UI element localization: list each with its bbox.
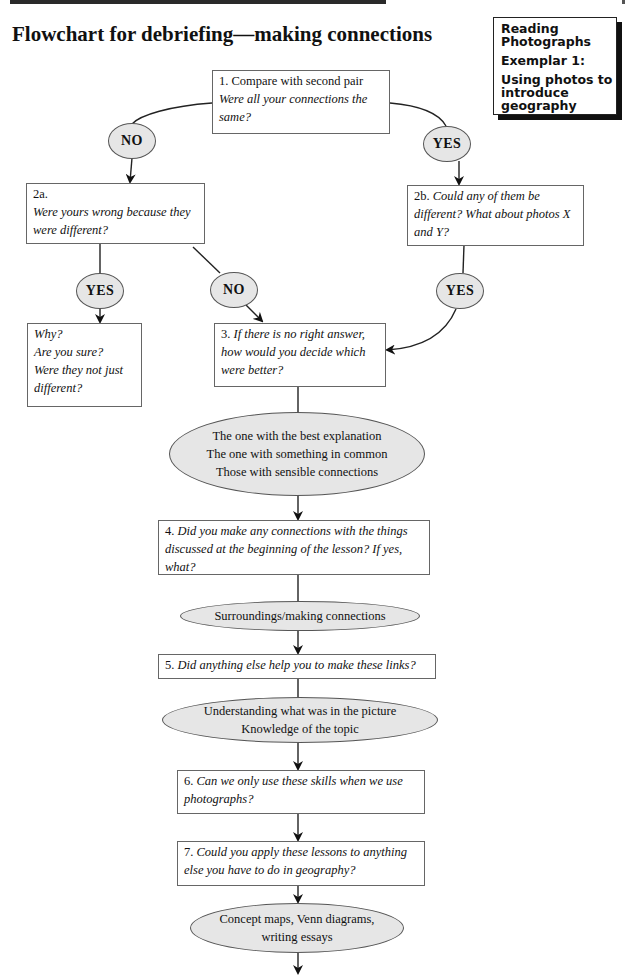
why-line-3: Were they not just: [34, 361, 135, 379]
answer-3-2: The one with something in common: [207, 445, 388, 463]
step-5-box: 5. Did anything else help you to make th…: [158, 654, 436, 679]
no-oval-2a: NO: [210, 272, 258, 308]
why-line-2: Are you sure?: [34, 343, 135, 361]
answer-4-1: Surroundings/making connections: [214, 607, 385, 625]
step-4-label: 4.: [165, 524, 174, 538]
yes-oval-1: YES: [423, 126, 471, 162]
why-line-4: different?: [34, 379, 135, 397]
yes-oval-2a: YES: [76, 273, 124, 309]
answer-5-1: Understanding what was in the picture: [204, 702, 397, 720]
step-3-question: If there is no right answer, how would y…: [221, 327, 365, 377]
step-2a-box: 2a. Were yours wrong because they were d…: [26, 183, 205, 244]
answers-3-oval: The one with the best explanation The on…: [169, 412, 425, 496]
answer-3-1: The one with the best explanation: [212, 427, 381, 445]
answer-7-2: writing essays: [261, 928, 332, 946]
step-3-label: 3.: [221, 327, 230, 341]
step-6-label: 6.: [184, 774, 193, 788]
step-7-label: 7.: [184, 845, 193, 859]
step-5-question: Did anything else help you to make these…: [178, 658, 416, 672]
step-4-question: Did you make any connections with the th…: [165, 524, 408, 574]
step-5-label: 5.: [165, 658, 174, 672]
step-7-question: Could you apply these lessons to anythin…: [184, 845, 407, 877]
step-2a-label: 2a.: [33, 185, 198, 203]
step-2a-question: Were yours wrong because they were diffe…: [33, 205, 191, 237]
step-2b-question: Could any of them be different? What abo…: [414, 189, 570, 239]
step-7-box: 7. Could you apply these lessons to anyt…: [177, 841, 425, 886]
answer-7-1: Concept maps, Venn diagrams,: [220, 910, 375, 928]
step-6-box: 6. Can we only use these skills when we …: [177, 770, 425, 814]
step-1-box: 1. Compare with second pair Were all you…: [212, 70, 390, 134]
step-2b-box: 2b. Could any of them be different? What…: [407, 185, 584, 246]
why-box: Why? Are you sure? Were they not just di…: [27, 323, 142, 407]
answer-3-3: Those with sensible connections: [216, 463, 378, 481]
step-2b-label: 2b.: [414, 189, 430, 203]
step-3-box: 3. If there is no right answer, how woul…: [214, 323, 386, 387]
answers-4-oval: Surroundings/making connections: [180, 601, 420, 631]
step-1-question: Were all your connections the same?: [219, 92, 367, 124]
yes-oval-2b: YES: [436, 273, 484, 309]
step-4-box: 4. Did you make any connections with the…: [158, 520, 430, 575]
answers-7-oval: Concept maps, Venn diagrams, writing ess…: [190, 903, 404, 953]
why-line-1: Why?: [34, 325, 135, 343]
step-6-question: Can we only use these skills when we use…: [184, 774, 403, 806]
answers-5-oval: Understanding what was in the picture Kn…: [162, 697, 438, 743]
no-oval-1: NO: [108, 123, 156, 159]
answer-5-2: Knowledge of the topic: [241, 720, 359, 738]
step-1-label: 1. Compare with second pair: [219, 72, 383, 90]
